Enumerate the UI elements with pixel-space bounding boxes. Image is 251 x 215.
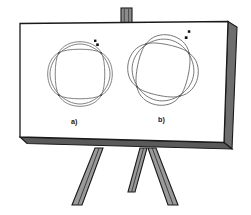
- diagram-a-node: [58, 94, 60, 96]
- easel-legs: [72, 148, 178, 205]
- easel-scene: a) b): [0, 0, 251, 215]
- diagram-a-marker-2: [96, 43, 99, 46]
- easel-leg-left: [72, 148, 103, 205]
- diagram-a-node: [100, 94, 102, 96]
- diagram-a-marker-1: [94, 40, 96, 42]
- diagram-a-node: [100, 52, 102, 54]
- diagram-b-marker-1: [188, 30, 191, 33]
- diagram-b-label: b): [158, 115, 165, 124]
- diagram-a-label: a): [71, 117, 78, 126]
- diagram-a-node: [58, 52, 60, 54]
- diagram-b-marker-2: [185, 36, 188, 39]
